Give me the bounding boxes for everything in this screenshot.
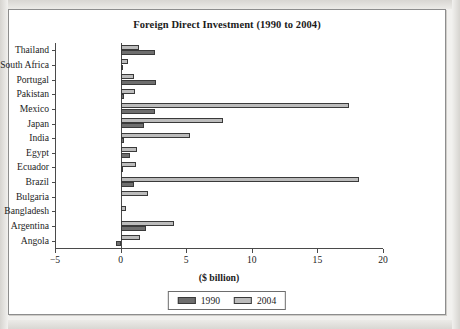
- bar-1990: [121, 138, 124, 143]
- bar-2004: [121, 221, 175, 226]
- chart-legend: 1990 2004: [168, 291, 286, 310]
- x-axis-tick-label: −5: [50, 254, 60, 265]
- bar-group: [55, 102, 383, 115]
- page-edge-left: [0, 0, 8, 329]
- bar-group: [55, 234, 383, 247]
- bar-row: Egypt: [55, 146, 383, 159]
- bar-group: [55, 190, 383, 203]
- bar-2004: [121, 206, 127, 211]
- bar-row: Bangladesh: [55, 205, 383, 218]
- x-axis-tick: [55, 249, 56, 253]
- category-label: Ecuador: [17, 162, 49, 173]
- category-label: Brazil: [26, 176, 49, 187]
- bar-group: [55, 175, 383, 188]
- bar-2004: [121, 162, 137, 167]
- x-axis-tick: [252, 249, 253, 253]
- x-axis-tick: [186, 249, 187, 253]
- bar-group: [55, 131, 383, 144]
- bar-group: [55, 58, 383, 71]
- x-axis-tick: [121, 249, 122, 253]
- bar-2004: [121, 59, 129, 64]
- bar-row: Pakistan: [55, 88, 383, 101]
- bar-row: Argentina: [55, 219, 383, 232]
- bar-2004: [121, 147, 137, 152]
- bar-row: Japan: [55, 117, 383, 130]
- bar-1990: [121, 80, 156, 85]
- bar-group: [55, 219, 383, 232]
- bar-group: [55, 161, 383, 174]
- x-axis-tick-label: 10: [247, 254, 257, 265]
- bar-row: South Africa: [55, 58, 383, 71]
- bar-rows: ThailandSouth AfricaPortugalPakistanMexi…: [55, 43, 383, 248]
- x-axis-title: ($ billion): [55, 272, 383, 283]
- bar-2004: [121, 235, 140, 240]
- bar-row: Bulgaria: [55, 190, 383, 203]
- category-label: Pakistan: [16, 89, 49, 100]
- bar-row: Brazil: [55, 175, 383, 188]
- bar-1990: [121, 94, 124, 99]
- bar-group: [55, 117, 383, 130]
- bar-2004: [121, 118, 223, 123]
- bar-1990: [121, 123, 145, 128]
- chart-figure-frame: Foreign Direct Investment (1990 to 2004)…: [8, 9, 446, 315]
- plot-area: ThailandSouth AfricaPortugalPakistanMexi…: [55, 43, 383, 249]
- chart-title: Foreign Direct Investment (1990 to 2004): [9, 19, 445, 30]
- legend-item-1990: 1990: [178, 295, 220, 306]
- bar-row: Thailand: [55, 44, 383, 57]
- page-edge-top: [0, 0, 460, 9]
- bar-group: [55, 88, 383, 101]
- category-label: Thailand: [15, 45, 49, 56]
- bar-2004: [121, 74, 134, 79]
- page-edge-bottom: [0, 320, 460, 329]
- bar-2004: [121, 177, 360, 182]
- category-label: Angola: [21, 235, 49, 246]
- bar-1990: [116, 241, 120, 246]
- category-label: Portugal: [16, 74, 49, 85]
- x-axis-tick: [317, 249, 318, 253]
- category-label: Egypt: [26, 147, 49, 158]
- bar-1990: [121, 65, 123, 70]
- bar-row: Ecuador: [55, 161, 383, 174]
- x-axis-tick: [383, 249, 384, 253]
- bar-row: India: [55, 131, 383, 144]
- legend-swatch-1990-icon: [178, 297, 196, 304]
- bar-row: Portugal: [55, 73, 383, 86]
- bar-1990: [121, 50, 155, 55]
- category-label: Japan: [27, 118, 49, 129]
- bar-2004: [121, 103, 349, 108]
- x-axis-tick-label: 15: [313, 254, 323, 265]
- legend-label-1990: 1990: [201, 295, 220, 306]
- bar-group: [55, 44, 383, 57]
- bar-1990: [121, 109, 155, 114]
- x-axis-ticks: −505101520: [55, 249, 383, 269]
- bar-group: [55, 73, 383, 86]
- bar-group: [55, 146, 383, 159]
- category-label: Mexico: [20, 103, 49, 114]
- x-axis-tick-label: 5: [184, 254, 189, 265]
- page-background: Foreign Direct Investment (1990 to 2004)…: [0, 0, 460, 329]
- bar-group: [55, 205, 383, 218]
- category-label: Bangladesh: [4, 206, 49, 217]
- bar-2004: [121, 89, 135, 94]
- bar-2004: [121, 133, 191, 138]
- legend-label-2004: 2004: [257, 295, 276, 306]
- bar-1990: [121, 167, 123, 172]
- bar-1990: [121, 153, 131, 158]
- category-label: India: [29, 132, 49, 143]
- legend-swatch-2004-icon: [234, 297, 252, 304]
- page-edge-right: [452, 0, 460, 329]
- bar-row: Mexico: [55, 102, 383, 115]
- bar-2004: [121, 191, 149, 196]
- category-label: Bulgaria: [16, 191, 49, 202]
- category-label: Argentina: [11, 220, 49, 231]
- x-axis-tick-label: 0: [118, 254, 123, 265]
- category-label: South Africa: [0, 59, 49, 70]
- bar-1990: [121, 182, 134, 187]
- legend-item-2004: 2004: [234, 295, 276, 306]
- bar-1990: [121, 226, 146, 231]
- bar-row: Angola: [55, 234, 383, 247]
- bar-2004: [121, 45, 139, 50]
- x-axis-tick-label: 20: [378, 254, 388, 265]
